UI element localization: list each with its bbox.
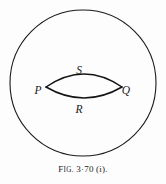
caption-figure-number: 3·70	[76, 164, 93, 174]
label-q: Q	[122, 84, 131, 96]
caption-fig-prefix-rest: IG.	[64, 166, 74, 174]
outer-circle	[10, 10, 156, 156]
lens-upper-arc-s	[46, 74, 122, 87]
figure-drawing: P Q S R	[0, 0, 166, 184]
label-r: R	[74, 103, 82, 115]
label-p: P	[33, 84, 41, 96]
figure-container: P Q S R FIG. 3·70 (i).	[0, 0, 166, 184]
caption-figure-part: (i).	[96, 164, 108, 174]
figure-caption: FIG. 3·70 (i).	[0, 164, 166, 174]
label-s: S	[76, 64, 82, 76]
lens-lower-arc-r	[46, 87, 122, 98]
